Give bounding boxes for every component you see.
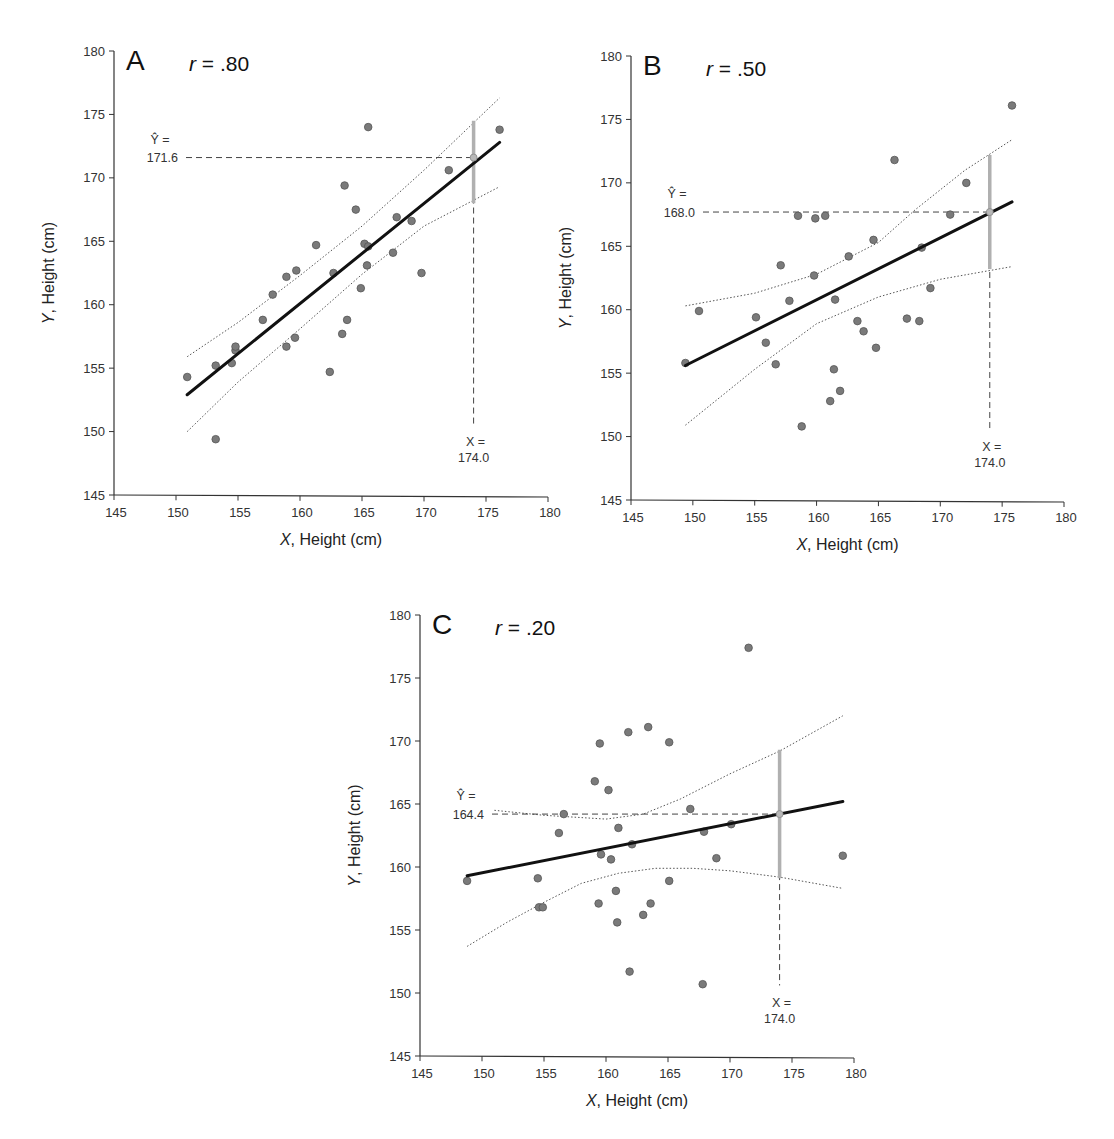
data-point [283,343,291,351]
y-axis-title: Y, Height (cm) [557,227,574,329]
data-point [854,317,862,325]
x-tick-label: 165 [870,510,892,525]
predicted-value-marker [986,209,993,216]
panel-letter: B [643,50,662,81]
data-point [326,368,334,376]
data-point [463,877,471,885]
y-axis-title-text: , Height (cm) [557,227,574,319]
x-label-value: 174.0 [458,451,489,465]
x-tick-label: 155 [535,1066,557,1081]
x-label-symbol: X = [982,440,1001,454]
data-point [745,644,753,652]
data-point [445,166,453,174]
data-point [183,373,191,381]
x-label-value: 174.0 [974,456,1005,470]
data-point [836,387,844,395]
data-point [839,852,847,860]
data-point [393,213,401,221]
y-hat-label-symbol: Ŷ = [456,788,475,803]
data-point [338,330,346,338]
data-point [341,182,349,190]
data-point [232,343,240,351]
y-tick-label: 155 [600,366,622,381]
confidence-band-upper [685,140,1012,306]
panel-b: 1451501551601651701751801451501551601651… [557,49,1077,554]
y-tick-label: 180 [389,608,411,623]
data-point [821,212,829,220]
confidence-band-lower [685,267,1012,426]
y-tick-label: 145 [600,493,622,508]
y-tick-label: 160 [389,860,411,875]
regression-line [685,202,1012,366]
y-tick-label: 165 [389,797,411,812]
data-point [595,900,603,908]
data-point [860,328,868,336]
x-tick-label: 155 [229,505,251,520]
panel-letter: A [126,45,145,76]
data-point [786,297,794,305]
y-tick-label: 150 [600,429,622,444]
x-tick-label: 165 [353,505,375,520]
data-point [798,423,806,431]
data-point [605,786,613,794]
y-hat-label-value: 171.6 [147,151,178,165]
figure-canvas: 1451501551601651701751801451501551601651… [0,0,1114,1139]
y-tick-label: 145 [389,1049,411,1064]
data-point [555,829,563,837]
confidence-band-upper [187,98,499,357]
data-point [927,284,935,292]
data-point [891,156,899,164]
correlation-label: r = .50 [706,57,766,80]
data-point [946,211,954,219]
data-point [291,334,299,342]
confidence-band-lower [467,868,843,946]
x-tick-label: 175 [783,1066,805,1081]
x-tick-label: 165 [659,1066,681,1081]
y-hat-label-value: 168.0 [664,206,695,220]
data-point [615,824,623,832]
data-point [812,215,820,223]
x-tick-label: 145 [411,1066,433,1081]
x-axis-title: X, Height (cm) [795,536,898,553]
data-point [625,728,633,736]
x-tick-label: 170 [415,505,437,520]
x-axis-line [420,1056,854,1058]
data-point [695,307,703,315]
data-point [312,241,320,249]
y-axis-title: Y, Height (cm) [346,784,363,886]
data-point [772,361,780,369]
data-point [612,887,620,895]
correlation-value: = .20 [502,616,555,639]
data-point [713,854,721,862]
y-tick-label: 165 [600,239,622,254]
y-tick-label: 160 [600,302,622,317]
x-axis-title: X, Height (cm) [279,531,382,548]
data-point [560,810,568,818]
data-point [496,126,504,134]
correlation-value: = .80 [196,52,249,75]
data-point [963,179,971,187]
x-tick-label: 145 [105,505,127,520]
data-point [357,284,365,292]
x-tick-label: 150 [167,505,189,520]
data-point [1008,102,1016,110]
data-point [283,273,291,281]
data-point [845,253,853,261]
data-point [647,900,655,908]
data-point [794,212,802,220]
data-point [810,272,818,280]
x-tick-label: 145 [622,510,644,525]
y-tick-label: 155 [83,361,105,376]
y-tick-label: 150 [83,424,105,439]
data-point [639,911,647,919]
x-tick-label: 155 [746,510,768,525]
y-axis-title: Y, Height (cm) [40,222,57,324]
panel-c: 1451501551601651701751801451501551601651… [346,608,867,1110]
y-tick-label: 160 [83,297,105,312]
data-point [364,123,372,131]
y-tick-label: 175 [600,112,622,127]
x-tick-label: 150 [473,1066,495,1081]
x-axis-title-text: , Height (cm) [807,536,899,553]
data-point [343,316,351,324]
x-label-symbol: X = [466,435,485,449]
